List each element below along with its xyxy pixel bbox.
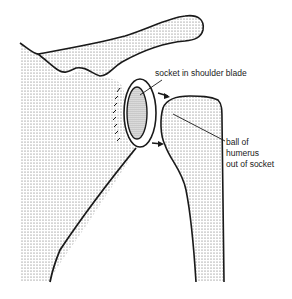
ball-label-line3: out of socket — [226, 159, 274, 170]
ball-label-line2: humerus — [226, 148, 259, 159]
shoulder-blade — [20, 43, 136, 282]
acromion — [38, 16, 203, 76]
socket-label: socket in shoulder blade — [155, 68, 247, 79]
ball-label-line1: ball of — [226, 137, 249, 148]
